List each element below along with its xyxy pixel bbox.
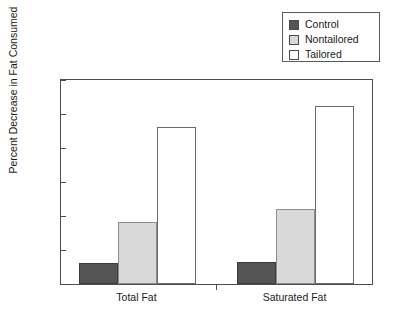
- bar-chart-figure: Control Nontailored Tailored Percent Dec…: [0, 0, 394, 315]
- legend-swatch-control-icon: [289, 20, 299, 30]
- legend-swatch-tailored-icon: [289, 50, 299, 60]
- bar-control-total-fat: [79, 263, 118, 284]
- legend-label-nontailored: Nontailored: [305, 34, 359, 45]
- y-axis-tick-mark: [61, 216, 66, 217]
- y-axis-tick-mark: [61, 250, 66, 251]
- legend-swatch-nontailored-icon: [289, 35, 299, 45]
- bar-tailored-saturated-fat: [315, 106, 354, 284]
- y-axis-tick-mark: [61, 114, 66, 115]
- y-axis-tick-mark: [61, 182, 66, 183]
- y-axis-tick-mark: [61, 148, 66, 149]
- x-axis-group-label: Total Fat: [77, 291, 197, 303]
- legend-label-tailored: Tailored: [305, 49, 342, 60]
- x-axis-group-label: Saturated Fat: [235, 291, 355, 303]
- bar-tailored-total-fat: [157, 127, 196, 284]
- bar-nontailored-saturated-fat: [276, 209, 315, 284]
- legend-item-nontailored: Nontailored: [289, 32, 374, 47]
- legend-item-control: Control: [289, 17, 374, 32]
- legend-label-control: Control: [305, 19, 339, 30]
- bar-nontailored-total-fat: [118, 222, 157, 284]
- y-axis-tick-mark: [61, 80, 66, 81]
- y-axis-title: Percent Decrease in Fat Consumed: [7, 0, 19, 195]
- chart-legend: Control Nontailored Tailored: [282, 12, 380, 62]
- x-axis-center-tick: [216, 285, 217, 290]
- legend-item-tailored: Tailored: [289, 47, 374, 62]
- plot-inner: [61, 80, 372, 284]
- y-axis-tick-mark: [61, 284, 66, 285]
- bar-control-saturated-fat: [237, 262, 276, 284]
- plot-area: [60, 79, 373, 285]
